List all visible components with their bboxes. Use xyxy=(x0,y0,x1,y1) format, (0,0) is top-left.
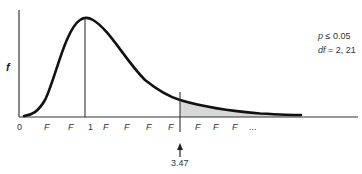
tick-1: 1 xyxy=(88,122,93,132)
tick-0: 0 xyxy=(17,122,22,132)
f-distribution-diagram: f 0 F F 1 F F F F F F F ... 3.47 p ≤ 0.0… xyxy=(0,0,362,174)
p-value-annotation: p ≤ 0.05 xyxy=(317,31,350,41)
arrow-up-icon xyxy=(177,143,183,150)
tick-F: F xyxy=(195,122,201,132)
tick-F: F xyxy=(103,122,109,132)
tick-ellipsis: ... xyxy=(249,122,257,132)
tick-F: F xyxy=(232,122,238,132)
df-annotation: df = 2, 21 xyxy=(318,45,356,55)
density-curve xyxy=(24,18,301,116)
y-axis-label: f xyxy=(6,61,11,73)
tick-F: F xyxy=(168,122,174,132)
tick-F: F xyxy=(44,122,50,132)
tick-F: F xyxy=(124,122,130,132)
tick-F: F xyxy=(146,122,152,132)
tick-F: F xyxy=(213,122,219,132)
tick-F: F xyxy=(68,122,74,132)
critical-value-label: 3.47 xyxy=(171,158,189,168)
